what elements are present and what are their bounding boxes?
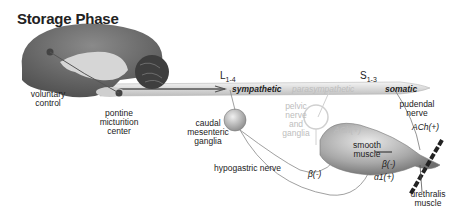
caudal-mesenteric-label: caudalmesentericganglia	[186, 119, 230, 146]
page-title: Storage Phase	[17, 10, 119, 27]
urethralis-muscle-label: urethralismuscle	[408, 190, 448, 208]
ach-pudendal-label: ACh(+)	[412, 123, 439, 132]
pelvic-ganglia-label: pelvic nerveand ganglia	[276, 102, 316, 138]
pudendal-nerve-label: pudendalnerve	[398, 100, 436, 118]
beta-body-label: β(-)	[308, 170, 321, 179]
brain-illustration	[22, 23, 169, 97]
segment-sacral-label: S1-3	[360, 70, 377, 83]
smooth-muscle-label: smoothmuscle	[350, 141, 384, 159]
alpha-neck-label: α1(+)	[374, 173, 394, 182]
parasympathetic-label: parasympathetic	[292, 85, 354, 94]
hypogastric-nerve-label: hypogastric nerve	[214, 164, 281, 173]
segment-lumbar-label: L1-4	[220, 70, 236, 83]
pontine-center-label: pontinemicturitioncenter	[95, 109, 143, 136]
sympathetic-label: sympathetic	[232, 85, 282, 94]
somatic-label: somatic	[385, 85, 417, 94]
beta-neck-label: β(-)	[382, 160, 395, 169]
ach-pelvic-label: ACh(+)	[334, 126, 361, 135]
voluntary-control-label: voluntarycontrol	[28, 90, 68, 108]
